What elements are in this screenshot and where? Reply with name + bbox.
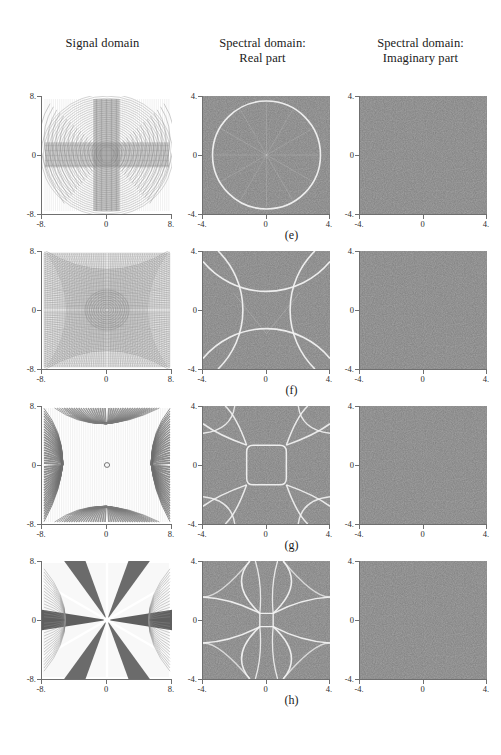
y-tick-label-e-signal-0: 8. (20, 91, 36, 101)
y-tick-f-real-0 (198, 251, 202, 252)
panel-row-e: 8.0-8.-8.08.4.0-4.-4.04.4.0-4.-4.04. (0, 92, 501, 247)
plot-area-f-signal (42, 251, 172, 369)
plot-area-f-imaginary (360, 251, 487, 369)
y-tick-label-e-real-2: -4. (181, 209, 197, 219)
y-tick-label-e-real-1: 0 (181, 150, 197, 160)
y-tick-e-signal-1 (37, 155, 41, 156)
y-tick-label-e-signal-1: 0 (20, 150, 36, 160)
y-tick-e-imaginary-1 (355, 155, 359, 156)
y-tick-f-signal-0 (37, 251, 41, 252)
panel-e-signal: 8.0-8.-8.08. (20, 92, 176, 232)
x-tick-label-h-imaginary-1: 0 (409, 684, 437, 694)
y-axis-e-real (202, 96, 203, 214)
panel-e-imaginary: 4.0-4.-4.04. (338, 92, 491, 232)
y-tick-h-signal-1 (37, 620, 41, 621)
y-tick-label-f-real-1: 0 (181, 305, 197, 315)
y-tick-label-f-signal-2: -8. (20, 364, 36, 374)
y-tick-label-h-imaginary-2: -4. (338, 674, 354, 684)
x-tick-label-g-real-0: -4. (188, 529, 216, 539)
panel-g-signal: 8.0-8.-8.08. (20, 402, 176, 542)
column-header-real-line1: Spectral domain: (219, 36, 306, 50)
y-tick-e-real-1 (198, 155, 202, 156)
y-axis-g-real (202, 406, 203, 524)
y-tick-label-f-real-0: 4. (181, 246, 197, 256)
y-tick-label-h-signal-1: 0 (20, 615, 36, 625)
y-tick-label-f-imaginary-1: 0 (338, 305, 354, 315)
y-tick-f-imaginary-1 (355, 310, 359, 311)
y-tick-label-g-signal-0: 8. (20, 401, 36, 411)
y-tick-label-e-real-0: 4. (181, 91, 197, 101)
y-tick-g-signal-0 (37, 406, 41, 407)
y-axis-g-imaginary (359, 406, 360, 524)
panel-f-imaginary: 4.0-4.-4.04. (338, 247, 491, 387)
column-header-imaginary-line1: Spectral domain: (377, 36, 464, 50)
x-tick-label-f-imaginary-1: 0 (409, 374, 437, 384)
panel-h-real: 4.0-4.-4.04. (181, 557, 334, 697)
x-tick-label-f-imaginary-2: 4. (472, 374, 500, 384)
x-tick-label-f-signal-0: -8. (27, 374, 55, 384)
column-headers: Signal domain Spectral domain: Real part… (0, 0, 501, 92)
x-tick-label-h-real-0: -4. (188, 684, 216, 694)
y-tick-label-g-signal-2: -8. (20, 519, 36, 529)
x-tick-label-e-signal-1: 0 (92, 219, 120, 229)
x-tick-label-h-imaginary-0: -4. (345, 684, 373, 694)
y-axis-e-signal (41, 96, 42, 214)
y-tick-label-h-real-2: -4. (181, 674, 197, 684)
plot-area-e-signal (42, 96, 172, 214)
y-tick-label-h-imaginary-1: 0 (338, 615, 354, 625)
spectral-field-g-imaginary (360, 406, 487, 524)
panel-h-imaginary: 4.0-4.-4.04. (338, 557, 491, 697)
y-tick-label-h-imaginary-0: 4. (338, 556, 354, 566)
y-tick-label-f-signal-1: 0 (20, 305, 36, 315)
y-tick-label-h-signal-2: -8. (20, 674, 36, 684)
plot-area-e-imaginary (360, 96, 487, 214)
y-axis-h-imaginary (359, 561, 360, 679)
y-tick-g-real-1 (198, 465, 202, 466)
panel-row-f: 8.0-8.-8.08.4.0-4.-4.04.4.0-4.-4.04. (0, 247, 501, 402)
y-tick-f-imaginary-0 (355, 251, 359, 252)
panel-row-g: 8.0-8.-8.08.4.0-4.-4.04.4.0-4.-4.04. (0, 402, 501, 557)
y-axis-f-real (202, 251, 203, 369)
x-tick-label-h-imaginary-2: 4. (472, 684, 500, 694)
x-tick-label-h-signal-0: -8. (27, 684, 55, 694)
x-tick-label-e-imaginary-1: 0 (409, 219, 437, 229)
spectral-field-h-real (203, 561, 330, 679)
y-tick-g-imaginary-1 (355, 465, 359, 466)
y-tick-label-f-real-2: -4. (181, 364, 197, 374)
x-tick-label-e-signal-0: -8. (27, 219, 55, 229)
y-tick-label-g-imaginary-1: 0 (338, 460, 354, 470)
spectral-field-f-imaginary (360, 251, 487, 369)
x-tick-label-g-signal-0: -8. (27, 529, 55, 539)
y-tick-label-g-real-1: 0 (181, 460, 197, 470)
y-tick-h-real-1 (198, 620, 202, 621)
y-tick-label-e-imaginary-0: 4. (338, 91, 354, 101)
signal-field-e-signal (42, 96, 172, 214)
plot-area-f-real (203, 251, 330, 369)
y-tick-label-g-imaginary-2: -4. (338, 519, 354, 529)
panel-e-real: 4.0-4.-4.04. (181, 92, 334, 232)
plot-area-e-real (203, 96, 330, 214)
x-tick-label-f-real-1: 0 (252, 374, 280, 384)
plot-area-g-signal (42, 406, 172, 524)
plot-area-h-signal (42, 561, 172, 679)
panel-f-real: 4.0-4.-4.04. (181, 247, 334, 387)
y-tick-g-imaginary-0 (355, 406, 359, 407)
y-tick-h-real-0 (198, 561, 202, 562)
y-tick-h-imaginary-0 (355, 561, 359, 562)
y-tick-label-f-imaginary-2: -4. (338, 364, 354, 374)
y-tick-f-signal-1 (37, 310, 41, 311)
y-tick-g-signal-1 (37, 465, 41, 466)
panel-g-real: 4.0-4.-4.04. (181, 402, 334, 542)
signal-field-f-signal (42, 251, 172, 369)
y-tick-label-g-real-0: 4. (181, 401, 197, 411)
y-tick-label-e-imaginary-2: -4. (338, 209, 354, 219)
x-tick-label-g-signal-1: 0 (92, 529, 120, 539)
panel-f-signal: 8.0-8.-8.08. (20, 247, 176, 387)
x-tick-label-h-real-1: 0 (252, 684, 280, 694)
signal-field-h-signal (42, 561, 172, 679)
y-axis-f-signal (41, 251, 42, 369)
y-tick-label-h-real-0: 4. (181, 556, 197, 566)
x-tick-label-h-signal-1: 0 (92, 684, 120, 694)
column-header-imaginary: Spectral domain: Imaginary part (340, 36, 501, 66)
panel-h-signal: 8.0-8.-8.08. (20, 557, 176, 697)
